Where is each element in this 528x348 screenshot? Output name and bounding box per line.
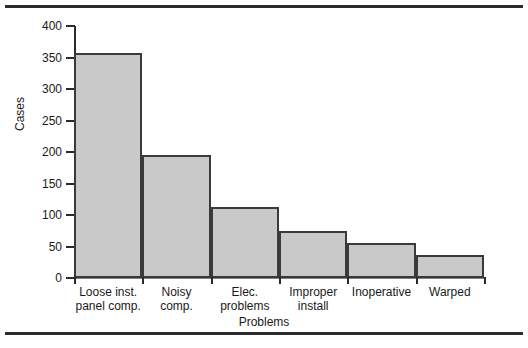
x-tick-mark [211,277,213,284]
y-tick-label-text: 400 [18,20,62,32]
pareto-bar-chart-figure: Cases 050100150200250300350400 Loose ins… [0,0,528,348]
x-category-label: Loose inst.panel comp. [74,285,142,313]
y-tick-label: 300 [0,83,62,95]
y-tick-label: 250 [0,115,62,127]
bar [74,53,142,278]
y-tick-label-text: 200 [18,146,62,158]
y-tick-label: 150 [0,178,62,190]
bar [211,207,279,278]
x-tick-mark [142,277,144,284]
x-category-label: Elec.problems [211,285,279,313]
x-category-label-line: Inoperative [347,285,415,299]
bar [416,255,484,278]
y-tick-label: 50 [0,241,62,253]
y-tick-label: 350 [0,52,62,64]
plot-area [74,26,484,278]
x-category-label-line: Warped [416,285,484,299]
x-category-label-line: comp. [142,299,210,313]
x-tick-mark [484,277,486,284]
x-category-label: Warped [416,285,484,299]
y-tick-label-text: 100 [18,209,62,221]
y-tick-label-text: 50 [18,241,62,253]
bar [347,243,415,278]
bar [279,231,347,278]
x-category-label: Noisycomp. [142,285,210,313]
x-tick-mark [74,277,76,284]
bar [142,155,210,278]
x-axis-title: Problems [0,315,528,329]
x-category-label: Improperinstall [279,285,347,313]
x-category-label-line: Elec. [211,285,279,299]
x-category-label-line: Loose inst. [74,285,142,299]
figure-bottom-rule [5,332,523,335]
y-tick-label-text: 250 [18,115,62,127]
y-tick-label: 100 [0,209,62,221]
x-category-label-line: panel comp. [74,299,142,313]
x-category-label-line: Improper [279,285,347,299]
x-tick-mark [279,277,281,284]
y-tick-label-text: 0 [18,272,62,284]
y-tick-label-text: 350 [18,52,62,64]
figure-top-rule [5,5,523,8]
y-tick-label-text: 150 [18,178,62,190]
x-tick-mark [347,277,349,284]
y-tick-label-text: 300 [18,83,62,95]
y-tick-label: 0 [0,272,62,284]
x-category-label-line: install [279,299,347,313]
y-tick-label: 400 [0,20,62,32]
x-category-label: Inoperative [347,285,415,299]
x-tick-mark [416,277,418,284]
y-tick-label: 200 [0,146,62,158]
x-category-label-line: Noisy [142,285,210,299]
x-category-label-line: problems [211,299,279,313]
